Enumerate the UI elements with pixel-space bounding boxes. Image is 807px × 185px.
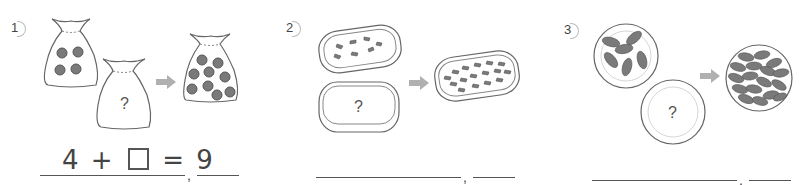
- equation-right: 9: [196, 145, 215, 175]
- equation-op: +: [91, 145, 115, 175]
- arrow-right-icon: [700, 69, 720, 83]
- problem-3: 3 ?: [537, 0, 806, 185]
- unknown-plate-icon: ?: [639, 78, 707, 146]
- svg-text:?: ?: [120, 95, 129, 112]
- problem-number: 2: [286, 20, 301, 37]
- tray-with-items-icon: [317, 22, 403, 76]
- arrow-right-icon: [156, 75, 176, 89]
- unknown-tray-icon: ?: [317, 78, 403, 136]
- problem-number: 1: [11, 20, 26, 37]
- comma: ,: [187, 167, 191, 183]
- equation-answer-line[interactable]: [316, 177, 461, 178]
- bag-with-coins-result-icon: [180, 30, 242, 106]
- problem-number: 3: [564, 22, 579, 39]
- answer-box[interactable]: [128, 148, 149, 170]
- comma: ,: [463, 169, 467, 185]
- answer-line[interactable]: [473, 177, 515, 178]
- plate-with-beans-result-icon: [724, 43, 794, 113]
- equation-answer-line[interactable]: [592, 180, 737, 181]
- comma: ,: [739, 172, 743, 185]
- svg-text:?: ?: [354, 98, 363, 115]
- equation-left: 4: [62, 145, 81, 175]
- tray-with-items-result-icon: [433, 48, 521, 104]
- arrow-right-icon: [409, 76, 429, 90]
- equation-eq: =: [162, 145, 186, 175]
- answer-line[interactable]: [749, 180, 791, 181]
- unknown-bag-icon: ?: [93, 55, 155, 131]
- equation-answer-line[interactable]: [40, 175, 185, 176]
- svg-text:?: ?: [668, 104, 677, 121]
- answer-line[interactable]: [197, 175, 239, 176]
- problem-1: 1 ? 4 + = 9 ,: [0, 0, 269, 185]
- equation: 4 + = 9: [62, 145, 215, 175]
- problem-2: 2 ?: [270, 0, 539, 185]
